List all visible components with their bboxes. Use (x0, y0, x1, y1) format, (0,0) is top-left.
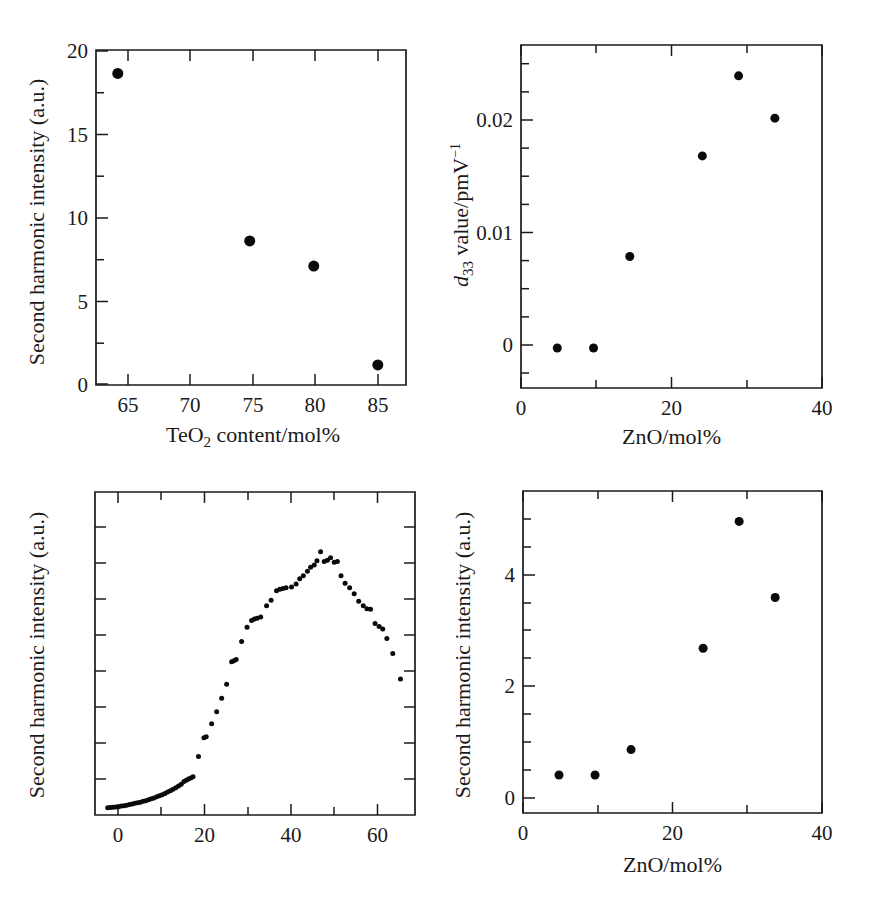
chart-top-left: Second harmonic intensity (a.u.) 20 15 1… (0, 0, 440, 450)
data-point (770, 114, 779, 123)
data-point (380, 626, 385, 631)
axis-title-y-bottom-left: Second harmonic intensity (a.u.) (24, 512, 49, 799)
x-tick-label: 20 (194, 823, 215, 847)
x-tick-label: 0 (516, 396, 527, 420)
data-point (625, 252, 634, 261)
axis-title-y-top-left: Second harmonic intensity (a.u.) (24, 79, 49, 366)
panel-bottom-left: Second harmonic intensity (a.u.) (0, 450, 440, 908)
x-tick-label: 80 (305, 393, 326, 417)
figure-root: Second harmonic intensity (a.u.) 20 15 1… (0, 0, 869, 908)
chart-bottom-left: Second harmonic intensity (a.u.) (0, 450, 440, 908)
y-tick-label: 15 (67, 123, 88, 147)
data-point (734, 71, 743, 80)
data-point (347, 585, 352, 590)
data-point (269, 598, 274, 603)
y-tick-label: 0 (78, 373, 89, 397)
data-point (627, 745, 636, 754)
data-point (343, 581, 348, 586)
data-point (214, 709, 219, 714)
data-point (219, 696, 224, 701)
data-point (196, 754, 201, 759)
data-point (204, 734, 209, 739)
data-point (305, 569, 310, 574)
y-axis-ticks-bottom-right (523, 519, 535, 798)
data-point (224, 682, 229, 687)
x-axis-ticks-top-left (128, 50, 378, 385)
data-series-bottom-left (105, 549, 403, 810)
x-tick-label: 20 (661, 396, 682, 420)
y-axis-ticks-top-right (521, 64, 533, 373)
axis-title-x-bottom-right: ZnO/mol% (623, 852, 722, 877)
x-tick-label: 60 (367, 823, 388, 847)
axis-frame-top-left (96, 50, 406, 385)
axis-title-y-bottom-right: Second harmonic intensity (a.u.) (450, 512, 475, 799)
data-point (328, 555, 333, 560)
y-axis-ticks-bottom-left (95, 527, 415, 779)
data-point (264, 603, 269, 608)
x-tick-label: 85 (368, 393, 389, 417)
x-axis-ticks-top-right (521, 45, 822, 388)
data-point (312, 562, 317, 567)
axis-title-x-top-left: TeO2 content/mol% (166, 422, 340, 450)
data-point (398, 676, 403, 681)
x-axis-ticks-bottom-left (118, 492, 378, 815)
x-axis-ticks-bottom-right (523, 491, 822, 813)
y-tick-label: 0 (503, 333, 514, 357)
x-tick-label: 40 (812, 396, 833, 420)
y-axis-ticks-top-left (96, 51, 108, 384)
data-point (318, 549, 323, 554)
data-point (368, 607, 373, 612)
data-point (112, 68, 123, 79)
data-point (373, 621, 378, 626)
x-tick-label: 75 (243, 393, 264, 417)
data-point (314, 558, 319, 563)
data-point (698, 151, 707, 160)
y-tick-label: 0.01 (476, 221, 513, 245)
x-tick-label: 20 (662, 821, 683, 845)
y-tick-label: 4 (505, 563, 516, 587)
data-point (352, 591, 357, 596)
data-point (191, 774, 196, 779)
data-point (356, 599, 361, 604)
x-tick-label: 0 (518, 821, 529, 845)
data-point (308, 261, 319, 272)
x-tick-label: 0 (113, 823, 124, 847)
data-point (699, 644, 708, 653)
data-point (390, 651, 395, 656)
axis-title-y-top-right: d33 value/pmV−1 (448, 143, 476, 287)
panel-top-right: d33 value/pmV−1 0 0.01 0.02 (430, 0, 869, 450)
data-point (209, 721, 214, 726)
data-point (553, 343, 562, 352)
data-point (239, 639, 244, 644)
data-point (301, 573, 306, 578)
axis-frame-bottom-right (523, 491, 822, 813)
y-tick-label: 5 (78, 290, 89, 314)
axis-title-x-top-right: ZnO/mol% (622, 424, 721, 449)
x-tick-label: 65 (118, 393, 139, 417)
x-tick-label: 70 (180, 393, 201, 417)
chart-bottom-right: Second harmonic intensity (a.u.) 0 2 4 (430, 450, 869, 908)
y-tick-label: 2 (505, 674, 516, 698)
panel-top-left: Second harmonic intensity (a.u.) 20 15 1… (0, 0, 440, 450)
data-point (335, 559, 340, 564)
data-point (234, 657, 239, 662)
y-tick-label: 20 (67, 39, 88, 63)
x-tick-label: 40 (281, 823, 302, 847)
data-point (589, 343, 598, 352)
data-series-bottom-right (555, 517, 780, 780)
data-point (735, 517, 744, 526)
panel-bottom-right: Second harmonic intensity (a.u.) 0 2 4 (430, 450, 869, 908)
data-point (284, 585, 289, 590)
data-series-top-left (112, 68, 383, 370)
y-tick-label: 0 (505, 786, 516, 810)
y-tick-label: 10 (67, 206, 88, 230)
data-point (244, 235, 255, 246)
data-point (339, 573, 344, 578)
data-point (289, 585, 294, 590)
data-point (555, 770, 564, 779)
x-tick-label: 40 (812, 821, 833, 845)
data-point (294, 582, 299, 587)
data-point (245, 625, 250, 630)
axis-frame-bottom-left (95, 492, 415, 815)
chart-top-right: d33 value/pmV−1 0 0.01 0.02 (430, 0, 869, 450)
